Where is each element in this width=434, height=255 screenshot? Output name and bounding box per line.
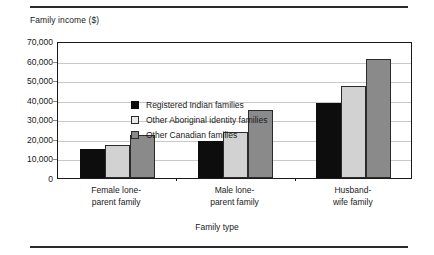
- chart-legend: Registered Indian familiesOther Aborigin…: [131, 97, 267, 142]
- y-axis-tick-label: 70,000: [1, 37, 53, 47]
- y-axis-tick-label: 20,000: [1, 135, 53, 145]
- x-axis-tick-label: Male lone- parent family: [175, 185, 293, 208]
- y-axis-tick-label: 10,000: [1, 154, 53, 164]
- legend-swatch-icon: [131, 116, 139, 124]
- x-axis-group-separator: [295, 178, 296, 181]
- top-rule: [30, 6, 408, 8]
- plot-area: Registered Indian familiesOther Aborigin…: [57, 42, 412, 179]
- bar: [80, 149, 105, 178]
- legend-swatch-icon: [131, 101, 139, 109]
- legend-item-label: Other Aboriginal identity families: [146, 115, 267, 125]
- bar: [341, 86, 366, 178]
- legend-item: Registered Indian families: [131, 97, 267, 112]
- x-axis-group-separator: [176, 178, 177, 181]
- y-axis-title: Family income ($): [30, 15, 99, 25]
- bar: [366, 59, 391, 178]
- y-axis-tick-labels: 010,00020,00030,00040,00050,00060,00070,…: [0, 42, 53, 179]
- bar: [316, 103, 341, 178]
- y-axis-tick-label: 40,000: [1, 96, 53, 106]
- chart-figure: Family income ($) 010,00020,00030,00040,…: [0, 0, 434, 255]
- bar: [198, 141, 223, 178]
- legend-item: Other Canadian families: [131, 127, 267, 142]
- y-axis-tick-label: 30,000: [1, 115, 53, 125]
- x-axis-title: Family type: [0, 222, 434, 232]
- y-axis-tick-label: 0: [1, 174, 53, 184]
- legend-item-label: Other Canadian families: [146, 130, 237, 140]
- bar: [105, 145, 130, 178]
- x-axis-tick-label: Husband- wife family: [294, 185, 412, 208]
- legend-swatch-icon: [131, 131, 139, 139]
- bottom-rule: [30, 246, 408, 248]
- legend-item-label: Registered Indian families: [146, 100, 244, 110]
- y-axis-tick-label: 50,000: [1, 76, 53, 86]
- x-axis-tick-label: Female lone- parent family: [57, 185, 175, 208]
- legend-item: Other Aboriginal identity families: [131, 112, 267, 127]
- y-axis-tick-label: 60,000: [1, 57, 53, 67]
